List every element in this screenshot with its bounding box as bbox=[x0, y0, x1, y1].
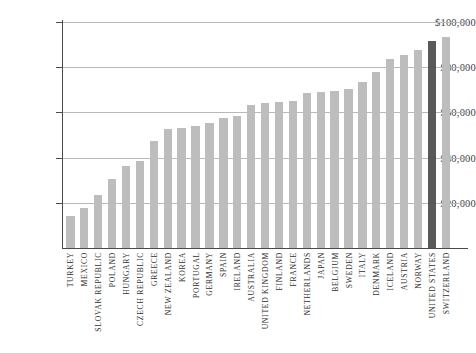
x-axis-tick-label-text: AUSTRALIA bbox=[247, 252, 256, 302]
x-axis-tick-label-text: CZECH REPUBLIC bbox=[135, 252, 144, 326]
x-axis-tick-label-text: FRANCE bbox=[288, 252, 297, 286]
x-axis-tick-label: SLOVAK REPUBLIC bbox=[91, 252, 105, 352]
bar-chart: $20,000$40,000$60,000$80,000$100,000 TUR… bbox=[0, 0, 476, 353]
x-axis-tick-label: FINLAND bbox=[272, 252, 286, 352]
x-axis-tick-label-text: KOREA bbox=[177, 252, 186, 282]
x-axis-tick-label-text: HUNGARY bbox=[122, 252, 131, 295]
x-axis-tick-label-text: ICELAND bbox=[386, 252, 395, 291]
x-axis-tick-label: UNITED STATES bbox=[425, 252, 439, 352]
x-axis-tick-label: NEW ZEALAND bbox=[161, 252, 175, 352]
x-axis-tick-label-text: SLOVAK REPUBLIC bbox=[94, 252, 103, 332]
x-axis-tick-label: MEXICO bbox=[77, 252, 91, 352]
x-axis-tick-label-text: ITALY bbox=[358, 252, 367, 277]
x-axis-tick-label: CZECH REPUBLIC bbox=[133, 252, 147, 352]
x-axis-tick-label: UNITED KINGDOM bbox=[258, 252, 272, 352]
x-axis-tick-label-text: TURKEY bbox=[66, 252, 75, 287]
x-axis-tick-label-text: NORWAY bbox=[414, 252, 423, 289]
x-axis-tick-label: GERMANY bbox=[203, 252, 217, 352]
x-axis-tick-label-text: NEW ZEALAND bbox=[163, 252, 172, 315]
x-axis-tick-label-text: IRELAND bbox=[233, 252, 242, 291]
x-axis-tick-label-text: SWEDEN bbox=[344, 252, 353, 288]
x-axis-tick-label: NETHERLANDS bbox=[300, 252, 314, 352]
x-axis-tick-label: SPAIN bbox=[216, 252, 230, 352]
x-axis-tick-label-text: POLAND bbox=[108, 252, 117, 287]
x-axis-tick-label: DENMARK bbox=[369, 252, 383, 352]
x-axis-tick-label: HUNGARY bbox=[119, 252, 133, 352]
x-axis-tick-label-text: UNITED STATES bbox=[427, 252, 436, 318]
x-axis-tick-label-text: MEXICO bbox=[80, 252, 89, 286]
x-axis-tick-label-text: SPAIN bbox=[219, 252, 228, 277]
x-axis-tick-label: TURKEY bbox=[64, 252, 78, 352]
x-axis-tick-label-text: UNITED KINGDOM bbox=[261, 252, 270, 329]
x-axis-tick-label-text: SWITZERLAND bbox=[441, 252, 450, 314]
x-axis-tick-label: JAPAN bbox=[314, 252, 328, 352]
x-axis-tick-label-text: AUSTRIA bbox=[400, 252, 409, 290]
x-axis-tick-label-text: NETHERLANDS bbox=[302, 252, 311, 316]
x-axis-tick-label-text: DENMARK bbox=[372, 252, 381, 296]
x-axis-tick-label: AUSTRALIA bbox=[244, 252, 258, 352]
x-axis-labels: TURKEYMEXICOSLOVAK REPUBLICPOLANDHUNGARY… bbox=[62, 0, 468, 353]
x-axis-tick-label: SWITZERLAND bbox=[439, 252, 453, 352]
x-axis-tick-label: AUSTRIA bbox=[397, 252, 411, 352]
y-axis-labels bbox=[0, 0, 58, 353]
x-axis-tick-label: KOREA bbox=[175, 252, 189, 352]
x-axis-tick-label: SWEDEN bbox=[342, 252, 356, 352]
x-axis-tick-label: FRANCE bbox=[286, 252, 300, 352]
x-axis-tick-label: NORWAY bbox=[411, 252, 425, 352]
x-axis-tick-label: ICELAND bbox=[383, 252, 397, 352]
x-axis-tick-label-text: GREECE bbox=[149, 252, 158, 286]
x-axis-tick-label: BELGIUM bbox=[328, 252, 342, 352]
x-axis-tick-label: ITALY bbox=[355, 252, 369, 352]
x-axis-tick-label: GREECE bbox=[147, 252, 161, 352]
x-axis-tick-label-text: JAPAN bbox=[316, 252, 325, 279]
x-axis-tick-label: IRELAND bbox=[230, 252, 244, 352]
x-axis-tick-label-text: BELGIUM bbox=[330, 252, 339, 292]
x-axis-tick-label-text: FINLAND bbox=[274, 252, 283, 291]
x-axis-tick-label: PORTUGAL bbox=[189, 252, 203, 352]
x-axis-tick-label-text: PORTUGAL bbox=[191, 252, 200, 298]
x-axis-tick-label-text: GERMANY bbox=[205, 252, 214, 296]
x-axis-tick-label: POLAND bbox=[105, 252, 119, 352]
